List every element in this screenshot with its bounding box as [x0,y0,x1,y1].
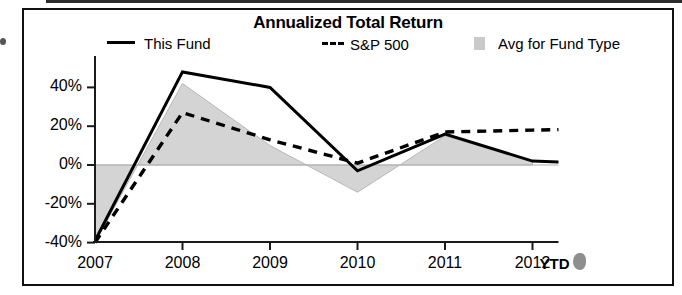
y-axis-tick-label: -20% [24,194,82,212]
x-axis-tick-label: 2009 [235,254,305,272]
scan-artifact-top-edge [46,0,682,3]
x-axis-tick-label: 2010 [323,254,393,272]
y-axis-tick-label: -40% [24,233,82,251]
y-axis-tick-label: 0% [24,155,82,173]
y-axis-tick-label: 20% [24,116,82,134]
annualized-total-return-chart: Annualized Total Return This Fund S&P 50… [22,8,674,286]
avg-for-fund-type-area [95,84,533,243]
scan-artifact-left-mark [0,38,6,45]
x-axis-tick-label: 2007 [60,254,130,272]
scan-artifact-ytd-blob [573,253,586,270]
x-axis-tick-label: 2008 [148,254,218,272]
x-axis-ytd-label: YTD [540,255,570,272]
plot-area [24,10,674,286]
y-axis-tick-label: 40% [24,77,82,95]
x-axis-tick-label: 2011 [410,254,480,272]
